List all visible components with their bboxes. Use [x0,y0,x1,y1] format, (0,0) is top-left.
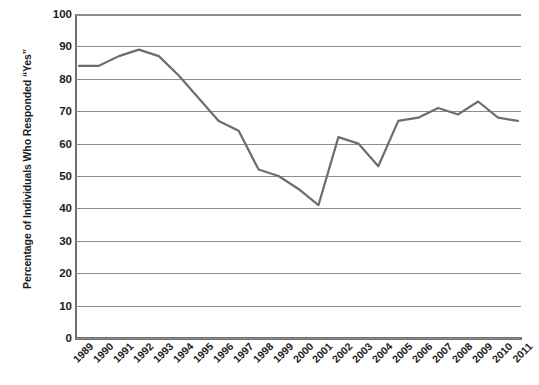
y-tick-label-0: 0 [38,332,72,344]
y-axis-tick-labels: 0102030405060708090100 [32,0,72,385]
line-chart: Percentage of Individuals Who Responded … [0,0,539,385]
data-series-line [76,14,521,338]
y-tick-label-60: 60 [38,138,72,150]
y-tick-label-80: 80 [38,73,72,85]
x-axis-tick-labels: 1989199019911992199319941995199619971998… [76,340,536,385]
y-tick-label-100: 100 [38,8,72,20]
y-tick-label-10: 10 [38,300,72,312]
y-tick-label-50: 50 [38,170,72,182]
y-tick-label-70: 70 [38,105,72,117]
y-tick-label-90: 90 [38,40,72,52]
gridline-0 [76,338,521,339]
plot-area [76,14,521,338]
y-tick-label-40: 40 [38,202,72,214]
y-tick-label-30: 30 [38,235,72,247]
y-tick-label-20: 20 [38,267,72,279]
